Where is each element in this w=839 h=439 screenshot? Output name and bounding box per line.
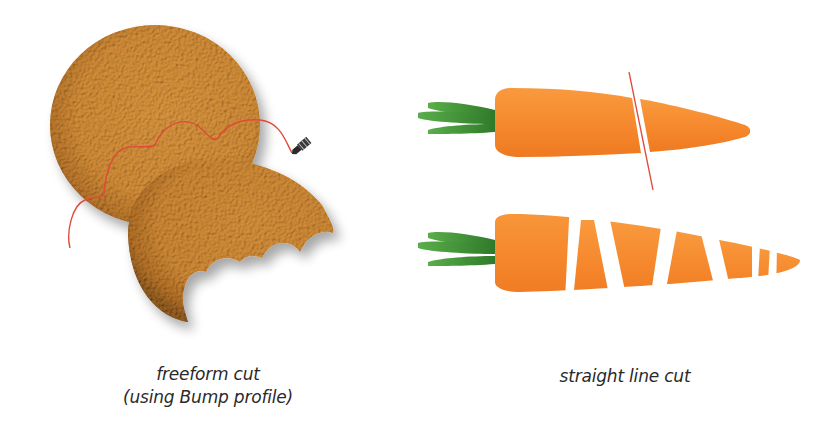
caption-line: (using Bump profile) bbox=[88, 386, 328, 409]
cookie-bitten bbox=[128, 160, 333, 322]
caption-line: freeform cut bbox=[88, 363, 328, 386]
caption-straight-line-cut: straight line cut bbox=[505, 365, 745, 388]
carrot-sliced bbox=[418, 200, 810, 300]
cookie-illustration bbox=[50, 25, 333, 322]
carrot-leaves-icon bbox=[418, 102, 495, 134]
carrot-single-cut bbox=[418, 72, 750, 190]
carrot-leaves-icon bbox=[418, 232, 495, 266]
knife-cursor-icon bbox=[289, 137, 311, 157]
caption-freeform-cut: freeform cut (using Bump profile) bbox=[88, 363, 328, 409]
caption-line: straight line cut bbox=[505, 365, 745, 388]
